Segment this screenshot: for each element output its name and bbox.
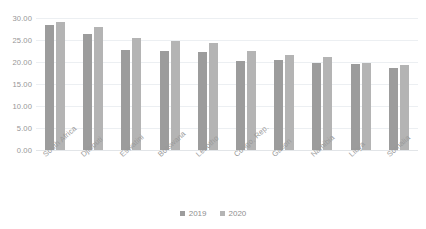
bar-chart: 30.0025.0020.0015.0010.005.000.00 South … <box>0 0 426 229</box>
y-axis-tick-label: 10.00 <box>12 102 32 111</box>
bar-2019[interactable] <box>236 61 245 150</box>
y-axis-tick-label: 20.00 <box>12 58 32 67</box>
bar-group[interactable] <box>380 18 418 150</box>
bar-2019[interactable] <box>312 63 321 150</box>
y-axis-tick-label: 0.00 <box>17 146 32 155</box>
bar-2019[interactable] <box>121 50 130 150</box>
y-axis-tick-label: 5.00 <box>17 124 32 133</box>
chart-legend: 20192020 <box>0 206 426 220</box>
bar-2020[interactable] <box>362 63 371 150</box>
bar-2019[interactable] <box>274 60 283 150</box>
bar-group[interactable] <box>342 18 380 150</box>
x-axis: South AfricaDjiboutiEswatiniBotswanaLeso… <box>36 152 418 204</box>
bar-2019[interactable] <box>351 64 360 150</box>
bar-group[interactable] <box>265 18 303 150</box>
bar-2019[interactable] <box>83 34 92 150</box>
y-axis-tick-label: 30.00 <box>12 14 32 23</box>
bar-2019[interactable] <box>198 52 207 150</box>
plot-area <box>36 18 418 150</box>
bar-2020[interactable] <box>94 27 103 150</box>
legend-swatch-icon <box>220 211 225 216</box>
legend-swatch-icon <box>180 211 185 216</box>
bar-2019[interactable] <box>45 25 54 150</box>
bar-group[interactable] <box>303 18 341 150</box>
y-axis-tick-label: 15.00 <box>12 80 32 89</box>
y-axis-tick-label: 25.00 <box>12 36 32 45</box>
bar-2019[interactable] <box>389 68 398 150</box>
bar-group[interactable] <box>112 18 150 150</box>
bar-2019[interactable] <box>160 51 169 150</box>
legend-item-2020[interactable]: 2020 <box>220 209 247 218</box>
legend-item-2019[interactable]: 2019 <box>180 209 207 218</box>
y-axis: 30.0025.0020.0015.0010.005.000.00 <box>0 18 32 150</box>
chart-title <box>0 0 426 4</box>
bar-group[interactable] <box>189 18 227 150</box>
legend-label: 2020 <box>229 209 247 218</box>
legend-label: 2019 <box>189 209 207 218</box>
bar-group[interactable] <box>74 18 112 150</box>
